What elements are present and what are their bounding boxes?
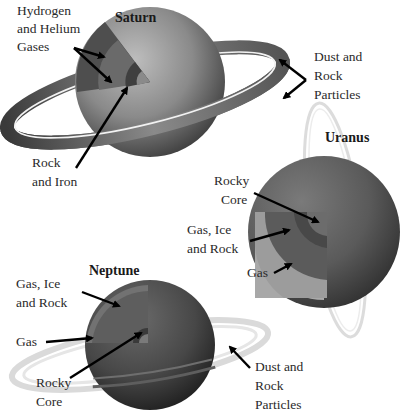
uranus-group: Uranus Rocky Core Gas, Ice and Rock Gas [187,100,400,341]
uranus-outer-label: Gas [247,265,268,280]
gas-giants-diagram: Saturn Hydrogen and Helium Gases Rock an… [0,0,405,417]
uranus-cutaway [255,212,327,300]
saturn-title: Saturn [115,10,156,25]
neptune-outer-label: Gas [16,334,37,349]
neptune-rings-label: Dust and Rock Particles [255,359,307,412]
saturn-rings-label: Dust and Rock Particles [314,49,366,102]
neptune-mantle-label: Gas, Ice and Rock [16,276,68,310]
uranus-mantle-label: Gas, Ice and Rock [187,222,239,256]
saturn-core-label: Rock and Iron [32,155,78,189]
neptune-title: Neptune [89,263,140,278]
saturn-rings-arrow-down [284,80,306,98]
uranus-title: Uranus [325,130,370,145]
uranus-core-label: Rocky Core [214,173,253,207]
saturn-gases-label: Hydrogen and Helium Gases [17,3,84,54]
